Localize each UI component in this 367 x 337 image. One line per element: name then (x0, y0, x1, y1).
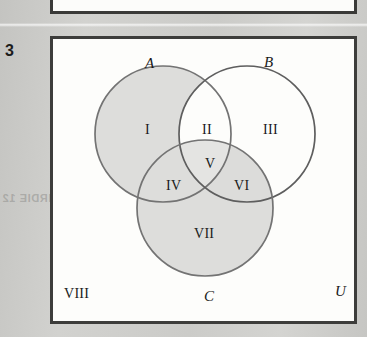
region-label-iv: IV (166, 179, 181, 193)
venn-svg (53, 39, 354, 321)
venn-diagram-figure: A B C U I II III IV V VI VII VIII (50, 36, 357, 324)
region-label-viii: VIII (64, 287, 89, 301)
universe-label: U (335, 284, 346, 299)
region-label-vii: VII (194, 227, 214, 241)
region-label-vi: VI (234, 179, 249, 193)
region-label-i: I (145, 123, 150, 137)
set-label-a: A (145, 56, 154, 71)
region-label-iii: III (263, 123, 278, 137)
venn-shading (95, 66, 315, 276)
page-root: ZOLS N2792 S VOE 8.X SEE ID A BIRDIE 12 … (0, 0, 367, 337)
set-label-c: C (204, 289, 214, 304)
previous-figure-frame (50, 0, 357, 14)
region-label-v: V (205, 157, 215, 171)
region-label-ii: II (202, 123, 212, 137)
set-label-b: B (264, 55, 273, 70)
figure-number: 3 (5, 43, 14, 59)
scan-seam (0, 23, 367, 27)
